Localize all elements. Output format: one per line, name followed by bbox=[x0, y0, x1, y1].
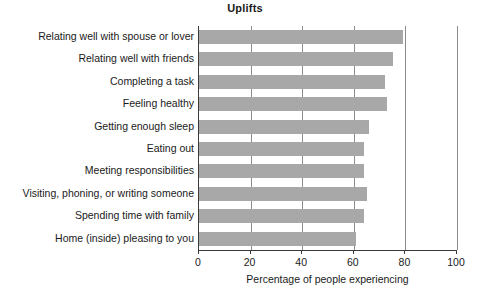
bar bbox=[199, 30, 403, 44]
x-tick-60 bbox=[353, 250, 354, 254]
x-tick-80 bbox=[404, 250, 405, 254]
bar bbox=[199, 164, 364, 178]
bar-row: Relating well with friends bbox=[199, 48, 457, 70]
x-tick-0 bbox=[198, 250, 199, 254]
bar-row: Visiting, phoning, or writing someone bbox=[199, 183, 457, 205]
bar bbox=[199, 52, 393, 66]
x-tick-label-40: 40 bbox=[281, 256, 321, 268]
plot-area: Relating well with spouse or loverRelati… bbox=[198, 26, 456, 250]
bar-row: Completing a task bbox=[199, 71, 457, 93]
category-label: Getting enough sleep bbox=[94, 119, 194, 134]
bar-row: Spending time with family bbox=[199, 205, 457, 227]
bar bbox=[199, 209, 364, 223]
category-label: Visiting, phoning, or writing someone bbox=[23, 186, 194, 201]
bar-chart: Uplifts Relating well with spouse or lov… bbox=[0, 0, 490, 293]
bar bbox=[199, 97, 387, 111]
bar-row: Feeling healthy bbox=[199, 93, 457, 115]
bar-row: Home (inside) pleasing to you bbox=[199, 228, 457, 250]
x-axis-title: Percentage of people experiencing bbox=[198, 273, 457, 285]
bar-rows: Relating well with spouse or loverRelati… bbox=[199, 26, 457, 250]
chart-title: Uplifts bbox=[0, 2, 490, 14]
category-label: Eating out bbox=[147, 141, 194, 156]
x-tick-100 bbox=[456, 250, 457, 254]
x-tick-20 bbox=[250, 250, 251, 254]
x-tick-label-60: 60 bbox=[333, 256, 373, 268]
x-tick-label-80: 80 bbox=[384, 256, 424, 268]
category-label: Home (inside) pleasing to you bbox=[55, 231, 194, 246]
x-axis-line bbox=[198, 250, 457, 251]
x-tick-label-20: 20 bbox=[230, 256, 270, 268]
bar bbox=[199, 142, 364, 156]
bar bbox=[199, 232, 356, 246]
bar bbox=[199, 75, 385, 89]
bar-row: Getting enough sleep bbox=[199, 116, 457, 138]
bar-row: Meeting responsibilities bbox=[199, 160, 457, 182]
gridline-100 bbox=[457, 26, 458, 250]
bar bbox=[199, 187, 367, 201]
bar-row: Eating out bbox=[199, 138, 457, 160]
category-label: Meeting responsibilities bbox=[85, 163, 194, 178]
category-label: Feeling healthy bbox=[123, 96, 194, 111]
category-label: Relating well with spouse or lover bbox=[38, 29, 194, 44]
x-tick-40 bbox=[301, 250, 302, 254]
x-tick-label-100: 100 bbox=[436, 256, 476, 268]
category-label: Spending time with family bbox=[75, 208, 194, 223]
category-label: Relating well with friends bbox=[78, 51, 194, 66]
x-tick-label-0: 0 bbox=[178, 256, 218, 268]
category-label: Completing a task bbox=[110, 74, 194, 89]
bar-row: Relating well with spouse or lover bbox=[199, 26, 457, 48]
bar bbox=[199, 120, 369, 134]
